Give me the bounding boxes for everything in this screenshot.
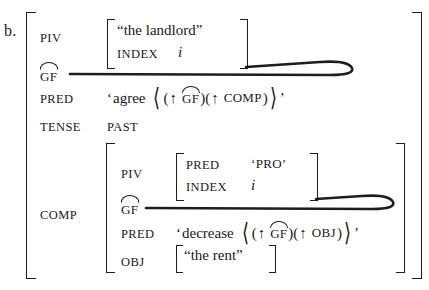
link-lines-layer	[0, 0, 429, 290]
f-structure-figure: b. PIV “the landlord” INDEX i GF PRED ‘ …	[0, 0, 429, 290]
link-line-outer-piv-gf	[70, 62, 352, 75]
link-line-inner-piv-gf	[146, 196, 393, 209]
